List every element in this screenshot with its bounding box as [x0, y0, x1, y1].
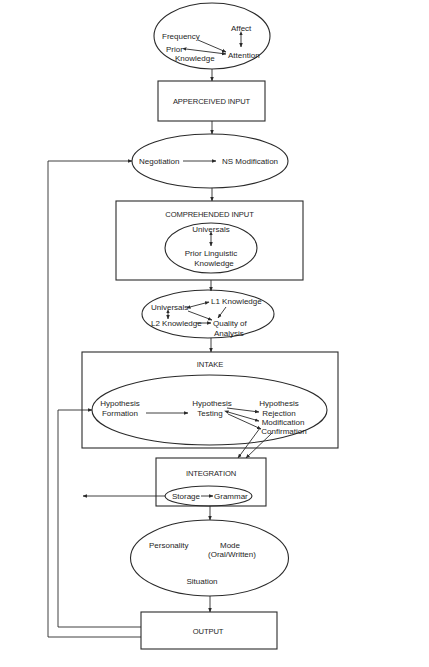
apperceived-input-node: APPERCEIVED INPUT: [158, 81, 265, 121]
label-modification: Modification: [262, 418, 305, 427]
label-negotiation: Negotiation: [139, 157, 179, 166]
label-personality: Personality: [149, 541, 189, 550]
label-situation: Situation: [186, 577, 217, 586]
label-prior-linguistic-knowledge: Knowledge: [194, 259, 234, 268]
flow-arrow-6a: [238, 428, 260, 458]
label-prior-knowledge: Knowledge: [175, 54, 215, 63]
integration-title: INTEGRATION: [186, 469, 236, 478]
arrow-testing-confirmation: [228, 414, 261, 429]
label-hypothesis-testing-1: Hypothesis: [192, 399, 232, 408]
label-hypothesis-formation-1: Hypothesis: [100, 399, 140, 408]
output-factors-node: Personality Mode (Oral/Written) Situatio…: [131, 520, 289, 596]
label-quality-of: Quality of: [213, 319, 248, 328]
arrow-universals-l1: [190, 302, 209, 307]
label-prior: Prior: [166, 45, 183, 54]
integration-node: INTEGRATION Storage Grammar: [156, 458, 266, 506]
apperceived-input-label: APPERCEIVED INPUT: [173, 97, 251, 106]
label-analysis: Analysis: [214, 329, 244, 338]
label-storage: Storage: [172, 492, 201, 501]
negotiation-node: Negotiation NS Modification: [132, 134, 288, 188]
input-factors-node: Frequency Affect Prior Knowledge Attenti…: [154, 3, 270, 69]
output-node: OUTPUT: [141, 612, 277, 649]
flow-arrow-6b: [246, 433, 272, 458]
label-frequency: Frequency: [162, 32, 200, 41]
label-mode-detail: (Oral/Written): [208, 550, 256, 559]
label-universals: Universals: [192, 225, 229, 234]
label-mode: Mode: [220, 541, 241, 550]
label-hypothesis-testing-2: Testing: [197, 409, 222, 418]
output-label: OUTPUT: [193, 627, 224, 636]
label-l2-knowledge: L2 Knowledge: [151, 319, 202, 328]
analysis-node: Universals L1 Knowledge L2 Knowledge Qua…: [142, 290, 274, 338]
label-confirmation: Confirmation: [261, 427, 306, 436]
label-l1-knowledge: L1 Knowledge: [211, 297, 262, 306]
label-hypothesis-formation-2: Formation: [102, 409, 138, 418]
label-ns-modification: NS Modification: [222, 157, 278, 166]
arrow-frequency-attention: [198, 40, 226, 52]
intake-node: INTAKE Hypothesis Formation Hypothesis T…: [82, 352, 338, 448]
label-affect: Affect: [231, 24, 252, 33]
label-grammar: Grammar: [214, 492, 248, 501]
sla-process-diagram: Frequency Affect Prior Knowledge Attenti…: [0, 0, 429, 667]
label-attention: Attention: [228, 51, 260, 60]
label-analysis-universals: Universals: [151, 303, 188, 312]
intake-title: INTAKE: [197, 360, 223, 369]
arrow-l1-quality: [218, 307, 226, 318]
label-hypothesis-outcome: Hypothesis: [259, 399, 299, 408]
label-prior-linguistic: Prior Linguistic: [185, 249, 237, 258]
comprehended-input-title: COMPREHENDED INPUT: [165, 210, 254, 219]
comprehended-input-node: COMPREHENDED INPUT Universals Prior Ling…: [116, 201, 303, 280]
feedback-loop-output-to-intake: [58, 410, 141, 627]
arrow-testing-rejection: [227, 408, 259, 412]
label-rejection: Rejection: [262, 409, 295, 418]
